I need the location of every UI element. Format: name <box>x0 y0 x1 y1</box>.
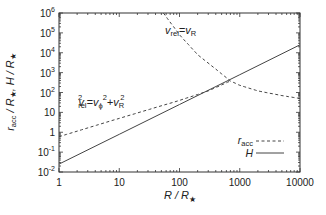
y-tick-label: 104 <box>40 46 55 59</box>
x-tick-labels: 110100100010000 <box>56 177 314 188</box>
plot-frame <box>59 13 300 172</box>
x-tick-label: 1000 <box>229 177 252 188</box>
y-tick-label: 10 <box>44 107 56 118</box>
y-tick-label: 10-2 <box>38 165 55 178</box>
y-tick-label: 102 <box>40 86 55 99</box>
x-tick-label: 100 <box>171 177 188 188</box>
x-tick-label: 1 <box>56 177 62 188</box>
y-axis-title: racc / R★, H / R★ <box>4 53 18 131</box>
y-tick-label: 105 <box>40 26 55 39</box>
legend-label-H: H <box>245 147 253 159</box>
y-tick-label: 103 <box>40 66 55 79</box>
y-tick-label: 106 <box>40 6 55 19</box>
y-tick-label: 10-1 <box>38 145 55 158</box>
axis-ticks <box>59 13 300 172</box>
legend-label-racc: racc <box>238 134 253 148</box>
y-tick-label: 1 <box>49 127 55 138</box>
y-tick-labels: 10-210-1110102103104105106 <box>38 6 56 178</box>
x-axis-title: R / R★ <box>164 189 196 204</box>
legend: racc H <box>238 134 284 159</box>
x-tick-label: 10 <box>114 177 126 188</box>
x-tick-label: 10000 <box>286 177 314 188</box>
annotation-vrel-squared: v2rel=vϕ2+vR2 <box>78 93 125 110</box>
annotation-vrel-eq-vR: vrel=vR <box>165 24 197 38</box>
chart: 110100100010000 10-210-11101021031041051… <box>0 0 326 215</box>
